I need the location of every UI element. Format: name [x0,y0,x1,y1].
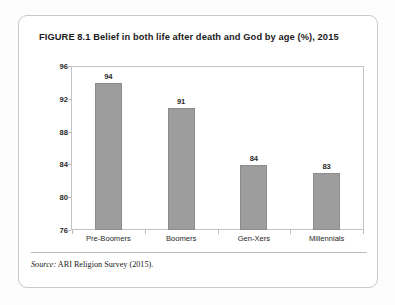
bar-group[interactable]: 91 [145,67,218,230]
y-tick-mark [68,197,71,198]
bar-group[interactable]: 94 [72,67,145,230]
bar[interactable] [313,173,340,230]
figure-title: FIGURE 8.1 Belief in both life after dea… [39,32,365,42]
bar[interactable] [240,165,267,230]
bar-group[interactable]: 84 [218,67,291,230]
y-tick-mark [68,66,71,67]
x-tick-label: Millennials [287,234,367,243]
y-axis: 969288848076 [39,66,68,230]
bar[interactable] [168,108,195,230]
source-divider [31,252,367,253]
x-tick-label: Gen-Xers [214,234,294,243]
source-label: Source: [31,260,56,269]
y-tick-mark [68,99,71,100]
y-tick-mark [68,164,71,165]
y-tick-label: 80 [42,193,68,202]
y-tick-label: 96 [42,62,68,71]
bar-value-label: 91 [161,97,201,106]
bar-value-label: 83 [307,162,347,171]
x-tick-label: Pre-Boomers [68,234,148,243]
source-text: ARI Religion Survey (2015). [56,260,153,269]
bar-value-label: 94 [88,72,128,81]
bar-chart: 969288848076 94918483 Pre-BoomersBoomers… [39,64,365,248]
bar-group[interactable]: 83 [290,67,363,230]
bar[interactable] [95,83,122,230]
y-tick-label: 92 [42,94,68,103]
y-tick-label: 88 [42,127,68,136]
source-note: Source: ARI Religion Survey (2015). [31,260,153,269]
x-axis-labels: Pre-BoomersBoomersGen-XersMillennials [71,234,364,248]
y-tick-label: 84 [42,160,68,169]
bars-layer: 94918483 [72,67,363,230]
y-tick-label: 76 [42,226,68,235]
bar-value-label: 84 [234,154,274,163]
x-tick-label: Boomers [141,234,221,243]
figure-card: FIGURE 8.1 Belief in both life after dea… [18,15,378,288]
y-tick-mark [68,132,71,133]
